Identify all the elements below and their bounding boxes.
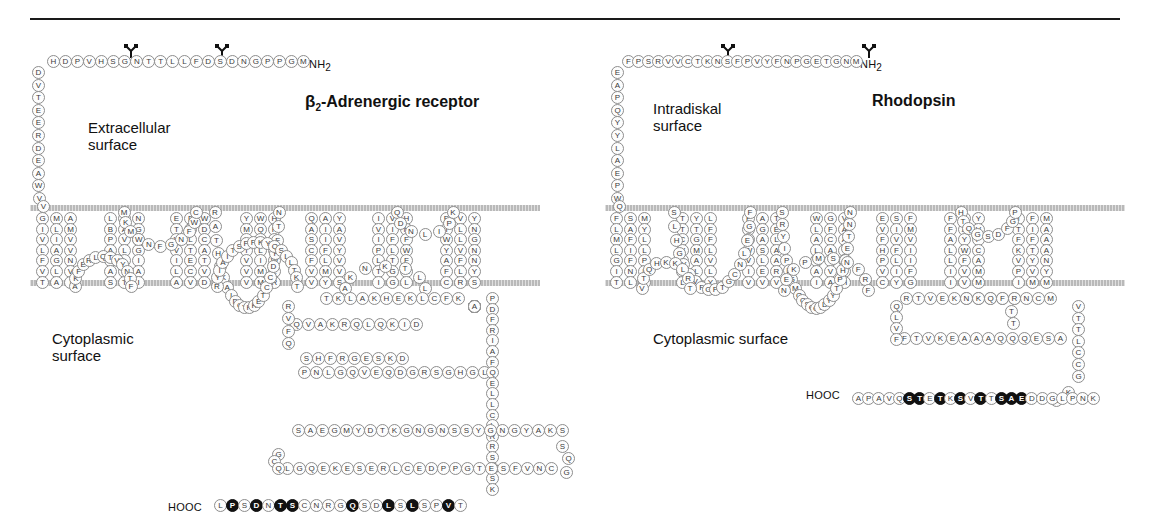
surface-label-cytoplasmic-right: Cytoplasmic surface bbox=[653, 330, 788, 347]
residue: F bbox=[862, 284, 875, 297]
residue: W bbox=[32, 179, 45, 192]
residue: T bbox=[842, 230, 855, 243]
residue: T bbox=[1007, 317, 1020, 330]
residue: P bbox=[799, 256, 812, 269]
n-terminus-label-right: NH2 bbox=[860, 58, 882, 74]
surface-label-cytoplasmic-left: Cytoplasmicsurface bbox=[52, 330, 134, 365]
residue: C bbox=[264, 271, 277, 284]
residue: Y bbox=[611, 116, 624, 129]
gpcr-topology-figure: β2-Adrenergic receptor Extracellularsurf… bbox=[0, 0, 1150, 528]
residue: D bbox=[396, 352, 409, 365]
surface-label-intradiskal: Intradiskalsurface bbox=[653, 100, 721, 135]
residue: T bbox=[36, 276, 49, 289]
residue: N bbox=[843, 218, 856, 231]
panel-title-b2ar: β2-Adrenergic receptor bbox=[305, 92, 479, 114]
residue: D bbox=[198, 276, 211, 289]
residue: K bbox=[787, 263, 800, 276]
residue: S bbox=[827, 252, 840, 265]
residue: G bbox=[560, 466, 573, 479]
residue: T bbox=[1005, 305, 1018, 318]
n-terminus-label-left: NH2 bbox=[309, 58, 331, 74]
c-terminus-label-left: HOOC bbox=[168, 501, 202, 514]
residue: S bbox=[468, 276, 481, 289]
residue: T bbox=[684, 282, 697, 295]
panel-title-rhodopsin: Rhodopsin bbox=[872, 92, 956, 110]
residue: E bbox=[32, 116, 45, 129]
residue: G bbox=[904, 276, 917, 289]
residue: E bbox=[841, 242, 854, 255]
residue: E bbox=[32, 104, 45, 117]
residue: M bbox=[850, 55, 863, 68]
residue: L bbox=[400, 276, 413, 289]
residue: F bbox=[890, 333, 903, 346]
residue: D bbox=[410, 318, 423, 331]
residue: N bbox=[734, 258, 747, 271]
residue: M bbox=[1044, 292, 1057, 305]
residue: A bbox=[209, 220, 222, 233]
glycosylation-tree-icon bbox=[862, 44, 876, 58]
residue: K bbox=[379, 260, 392, 273]
residue: K bbox=[1087, 392, 1100, 405]
residue: V bbox=[756, 276, 769, 289]
residue: P bbox=[611, 91, 624, 104]
residue: V bbox=[958, 276, 971, 289]
residue: I bbox=[944, 276, 957, 289]
residue: R bbox=[209, 206, 222, 219]
residue: S bbox=[104, 276, 117, 289]
residue: C bbox=[876, 276, 889, 289]
residue: V bbox=[184, 276, 197, 289]
residue: D bbox=[59, 55, 72, 68]
residue: A bbox=[611, 154, 624, 167]
residue: N bbox=[405, 225, 418, 238]
residue: M bbox=[1040, 276, 1053, 289]
residue: Y bbox=[611, 129, 624, 142]
residue: C bbox=[190, 206, 203, 219]
residue: F bbox=[282, 325, 295, 338]
residue: E bbox=[611, 66, 624, 79]
residue: N bbox=[273, 206, 286, 219]
residue: D bbox=[32, 66, 45, 79]
residue: V bbox=[240, 276, 253, 289]
residue: I bbox=[810, 276, 823, 289]
residue: I bbox=[1012, 276, 1025, 289]
residue: R bbox=[282, 300, 295, 313]
residue: K bbox=[447, 206, 460, 219]
residue: A bbox=[468, 300, 481, 313]
residue: L bbox=[178, 55, 191, 68]
residue: L bbox=[419, 228, 432, 241]
residue: N bbox=[844, 206, 857, 219]
top-divider-rule bbox=[30, 18, 1120, 20]
residue: A bbox=[170, 276, 183, 289]
residue: I bbox=[372, 276, 385, 289]
residue: S bbox=[556, 424, 569, 437]
residue: P bbox=[1009, 206, 1022, 219]
residue: M bbox=[1026, 276, 1039, 289]
residue: D bbox=[267, 260, 280, 273]
residue: P bbox=[71, 55, 84, 68]
residue: Q bbox=[272, 462, 285, 475]
residue: F bbox=[744, 206, 757, 219]
residue: Y bbox=[319, 276, 332, 289]
residue: C bbox=[440, 276, 453, 289]
residue: H bbox=[670, 234, 683, 247]
residue: M bbox=[297, 55, 310, 68]
residue: V bbox=[305, 276, 318, 289]
residue: L bbox=[611, 142, 624, 155]
residue: K bbox=[452, 292, 465, 305]
residue: V bbox=[37, 200, 50, 213]
residue: A bbox=[1054, 332, 1067, 345]
residue: T bbox=[272, 220, 285, 233]
residue: V bbox=[32, 79, 45, 92]
residue: S bbox=[776, 206, 789, 219]
residue: T bbox=[610, 276, 623, 289]
residue: R bbox=[454, 276, 467, 289]
residue: V bbox=[83, 55, 96, 68]
panel-title-b2ar-text: Adrenergic receptor bbox=[326, 93, 479, 110]
residue: E bbox=[32, 154, 45, 167]
residue: L bbox=[738, 247, 751, 260]
residue: K bbox=[344, 271, 357, 284]
residue: A bbox=[611, 79, 624, 92]
residue: P bbox=[611, 179, 624, 192]
membrane-band-upper-right bbox=[605, 205, 1125, 211]
residue: R bbox=[32, 129, 45, 142]
